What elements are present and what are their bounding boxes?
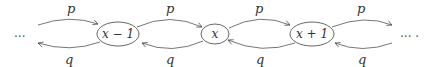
edge-backward-xp1-to-x [228, 40, 295, 48]
edge-forward-xp1-to-right [332, 20, 392, 27]
edge-label-p: p [67, 1, 76, 16]
markov-chain-diagram: ... p p p p q q q q x − 1 x x + 1 ... . [0, 0, 432, 67]
edge-forward-xm1-to-x [137, 20, 202, 28]
edge-forward-x-to-xp1 [229, 19, 290, 28]
edge-label-q: q [166, 52, 174, 67]
right-ellipsis: ... . [400, 26, 419, 40]
node-label-x-plus-1: x + 1 [296, 27, 328, 41]
node-label-x-minus-1: x − 1 [102, 27, 134, 41]
edge-label-q: q [65, 52, 73, 67]
edge-forward-left-to-xm1 [38, 19, 98, 25]
edge-label-p: p [166, 1, 175, 16]
edge-backward-right-to-xp1 [335, 43, 392, 49]
edge-label-p: p [357, 1, 366, 16]
edge-backward-x-to-xm1 [142, 41, 203, 49]
left-ellipsis: ... [14, 26, 25, 40]
edge-label-p: p [255, 1, 264, 16]
node-label-x: x [212, 27, 219, 41]
edge-label-q: q [358, 52, 366, 67]
edge-label-q: q [256, 52, 264, 67]
edge-backward-xm1-to-left [38, 42, 100, 48]
